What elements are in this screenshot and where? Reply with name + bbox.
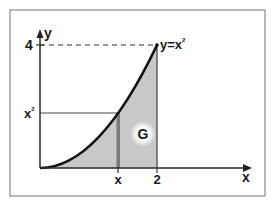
strip-at-x [117, 113, 121, 168]
curve-label-base: y=x [160, 37, 183, 52]
y-tick-label-4: 4 [25, 37, 33, 53]
region-label-g: G [138, 126, 149, 142]
y-axis-label: y [44, 25, 52, 41]
x-tick-label-2: 2 [153, 172, 160, 187]
apex-point [155, 43, 159, 47]
x-axis-label: x [242, 169, 250, 185]
x-tick-label: x [114, 172, 122, 187]
diagram-figure: y 4 y=x2 x2 G x 2 x [0, 0, 277, 204]
